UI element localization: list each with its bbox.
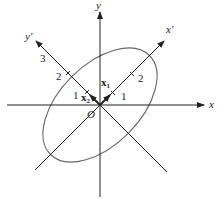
y-prime-tick-label-3: 3 [40,52,46,64]
x-axis-label: x [208,98,214,110]
y-prime-axis-label: y′ [24,30,33,42]
x-prime-tick-label-2: 2 [138,72,144,84]
x2-vector [90,95,100,105]
y-prime-tick-label-2: 2 [56,70,62,82]
x-prime-axis-label: x′ [165,23,174,35]
x1-label: x1 [101,76,111,90]
x-prime-tick-label-1: 1 [121,90,127,102]
rotated-axes-diagram: x y x′ y′ O x1 x2 1 2 1 2 3 [0,0,219,199]
y-prime-tick-label-1: 1 [73,89,79,101]
x2-label: x2 [81,91,91,105]
x1-vector [100,95,110,105]
y-axis-label: y [95,0,101,11]
origin-label: O [87,108,95,120]
y-prime-axis [36,41,167,172]
